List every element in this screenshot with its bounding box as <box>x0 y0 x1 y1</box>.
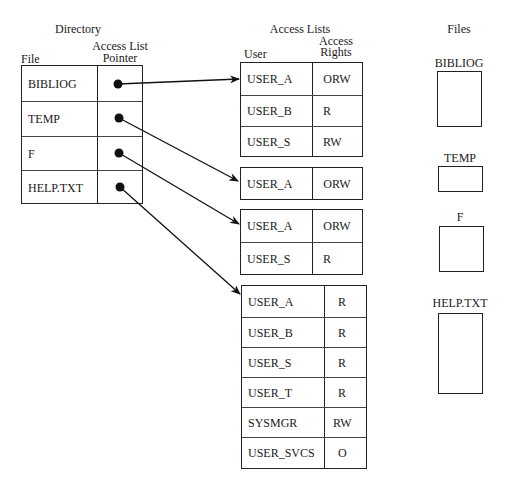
arrow-icon <box>120 187 240 294</box>
arrow-icon <box>119 153 239 224</box>
arrow-icon <box>119 118 238 181</box>
pointer-arrows <box>0 0 509 480</box>
arrow-icon <box>118 79 239 84</box>
